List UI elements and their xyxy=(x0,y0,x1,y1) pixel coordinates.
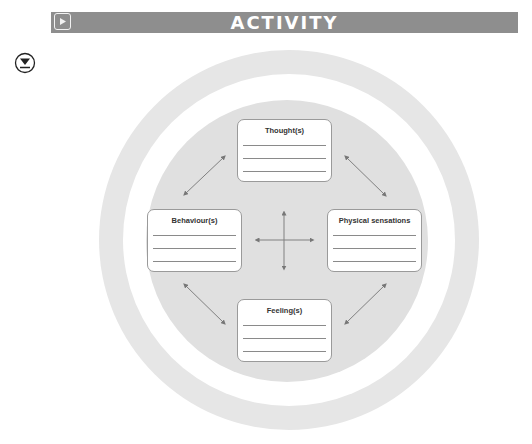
write-line[interactable] xyxy=(243,351,326,352)
write-line[interactable] xyxy=(333,235,416,236)
physical-sensations-label: Physical sensations xyxy=(328,216,421,225)
write-line[interactable] xyxy=(333,248,416,249)
write-line[interactable] xyxy=(243,338,326,339)
write-line[interactable] xyxy=(153,261,236,262)
cycle-diagram xyxy=(0,0,532,444)
write-line[interactable] xyxy=(243,171,326,172)
behaviours-box: Behaviour(s) xyxy=(147,209,242,272)
write-line[interactable] xyxy=(243,325,326,326)
thoughts-box: Thought(s) xyxy=(237,119,332,182)
feelings-box: Feeling(s) xyxy=(237,299,332,362)
write-line[interactable] xyxy=(243,145,326,146)
thoughts-label: Thought(s) xyxy=(238,126,331,135)
write-line[interactable] xyxy=(243,158,326,159)
write-line[interactable] xyxy=(153,235,236,236)
write-line[interactable] xyxy=(333,261,416,262)
physical-sensations-box: Physical sensations xyxy=(327,209,422,272)
write-line[interactable] xyxy=(153,248,236,249)
behaviours-label: Behaviour(s) xyxy=(148,216,241,225)
feelings-label: Feeling(s) xyxy=(238,306,331,315)
